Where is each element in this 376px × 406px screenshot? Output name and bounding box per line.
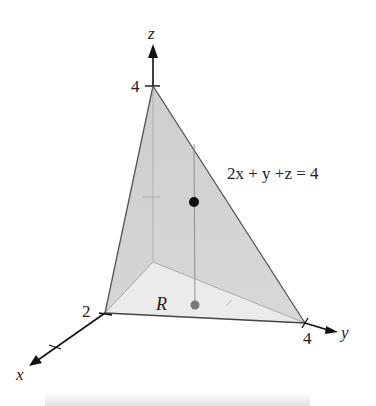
x-axis-arrow-icon bbox=[29, 355, 42, 366]
point-on-plane bbox=[189, 197, 199, 207]
cropped-caption-strip bbox=[45, 393, 310, 406]
x-axis: x 2 bbox=[15, 302, 112, 384]
x-axis-label: x bbox=[15, 365, 24, 384]
y-axis-arrow-icon bbox=[325, 326, 338, 334]
y-axis-label: y bbox=[339, 323, 349, 342]
y-axis: y 4 bbox=[302, 318, 349, 348]
tetrahedron-diagram: z 4 R 2x + y +z = 4 x 2 y bbox=[0, 0, 376, 406]
z-axis-arrow-icon bbox=[148, 44, 158, 58]
region-label: R bbox=[155, 294, 167, 314]
plane-equation-label: 2x + y +z = 4 bbox=[227, 164, 319, 183]
z-intercept-label: 4 bbox=[131, 77, 140, 96]
point-in-region bbox=[191, 301, 200, 310]
z-axis-label: z bbox=[147, 24, 155, 43]
x-intercept-label: 2 bbox=[82, 302, 91, 321]
y-intercept-label: 4 bbox=[303, 329, 312, 348]
z-axis: z 4 bbox=[131, 24, 160, 96]
